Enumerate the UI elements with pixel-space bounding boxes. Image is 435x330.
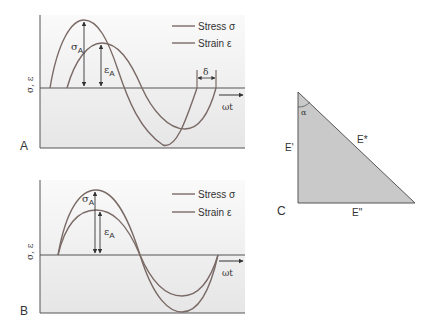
x-axis-label: ωt	[222, 268, 233, 278]
complex-modulus-label: E*	[357, 134, 368, 145]
viscoelastic-diagram: σA εA δ ωt σ, ε Stress σ Strain ε A	[0, 0, 435, 330]
y-axis-label: σ, ε	[25, 76, 35, 93]
panel-b-label: B	[20, 304, 28, 318]
legend-stress-label: Stress σ	[198, 21, 236, 32]
y-axis-label: σ, ε	[25, 243, 35, 260]
panel-c-label: C	[277, 204, 286, 218]
panel-b: σA εA ωt σ, ε Stress σ Strain ε B	[20, 180, 245, 318]
storage-modulus-label: E'	[285, 142, 294, 153]
panel-a-background	[40, 15, 245, 148]
phase-lag-label: δ	[203, 67, 208, 77]
x-axis-label: ωt	[222, 102, 233, 112]
angle-label: α	[301, 108, 307, 117]
legend-stress-label: Stress σ	[198, 189, 236, 200]
panel-a-label: A	[20, 139, 28, 153]
panel-a: σA εA δ ωt σ, ε Stress σ Strain ε A	[20, 15, 245, 153]
panel-c: α E' E* E" C	[277, 92, 415, 218]
legend-strain-label: Strain ε	[198, 38, 232, 49]
modulus-triangle	[298, 92, 415, 203]
loss-modulus-label: E"	[352, 207, 363, 218]
legend-strain-label: Strain ε	[198, 207, 232, 218]
